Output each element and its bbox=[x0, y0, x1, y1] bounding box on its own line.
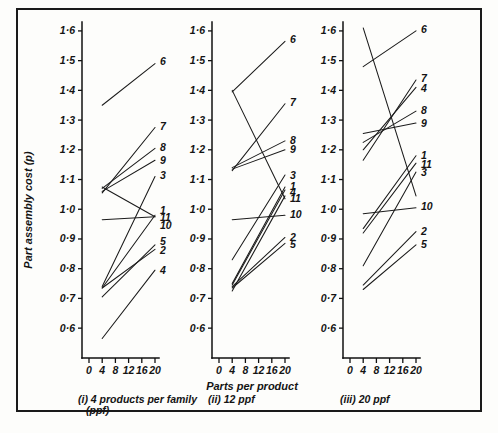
x-tick-label-1-4: 16 bbox=[136, 364, 148, 376]
y-tick-label-1-9: 1·5 bbox=[60, 54, 75, 66]
series-line-panel-i-10 bbox=[102, 217, 155, 220]
series-line-panel-iii-1 bbox=[363, 156, 416, 229]
series-label-panel-i-3: 3 bbox=[160, 169, 166, 181]
series-line-panel-i-8 bbox=[102, 148, 155, 188]
series-label-panel-i-9: 9 bbox=[160, 154, 166, 166]
y-tick-label-1-4: 1·0 bbox=[60, 203, 75, 215]
x-tick-label-3-5: 20 bbox=[409, 364, 422, 376]
series-label-panel-i-7: 7 bbox=[160, 120, 167, 132]
panel-1: 0·60·70·80·91·01·11·21·31·41·51·60481216… bbox=[60, 22, 198, 416]
y-tick-label-3-2: 0·8 bbox=[321, 262, 336, 274]
series-label-panel-iii-2: 2 bbox=[420, 225, 427, 237]
series-label-panel-ii-7: 7 bbox=[290, 96, 297, 108]
y-tick-label-2-9: 1·5 bbox=[190, 54, 205, 66]
series-line-panel-i-9 bbox=[102, 160, 155, 191]
y-tick-label-3-5: 1·1 bbox=[321, 173, 336, 185]
series-line-panel-ii-7 bbox=[232, 104, 285, 171]
series-label-panel-ii-6: 6 bbox=[290, 33, 296, 45]
series-label-panel-iii-9: 9 bbox=[421, 117, 427, 129]
series-line-panel-iii-4 bbox=[363, 87, 416, 149]
series-label-panel-iii-6: 6 bbox=[421, 23, 427, 35]
x-tick-label-1-0: 0 bbox=[86, 364, 92, 376]
series-label-panel-ii-11: 11 bbox=[290, 192, 301, 204]
series-line-panel-iii-12 bbox=[363, 28, 416, 196]
y-tick-label-3-10: 1·6 bbox=[321, 24, 336, 36]
panel-caption-2: (ii) 12 ppf bbox=[208, 393, 256, 405]
y-tick-label-3-1: 0·7 bbox=[321, 292, 337, 304]
panel-caption-3: (iii) 20 ppf bbox=[340, 393, 391, 405]
series-label-panel-iii-3: 3 bbox=[421, 166, 427, 178]
y-tick-label-1-3: 0·9 bbox=[60, 232, 75, 244]
series-line-panel-i-2 bbox=[102, 249, 155, 288]
y-tick-label-2-1: 0·7 bbox=[190, 292, 206, 304]
y-tick-label-2-3: 0·9 bbox=[190, 232, 205, 244]
y-tick-label-2-7: 1·3 bbox=[190, 114, 205, 126]
series-label-panel-iii-10: 10 bbox=[421, 200, 433, 212]
series-line-panel-iii-6 bbox=[363, 31, 416, 67]
y-tick-label-3-7: 1·3 bbox=[321, 114, 336, 126]
series-line-panel-i-1 bbox=[102, 187, 155, 217]
series-line-panel-i-11 bbox=[102, 215, 155, 288]
y-tick-label-2-0: 0·6 bbox=[190, 322, 205, 334]
y-tick-label-2-6: 1·2 bbox=[190, 143, 205, 155]
y-tick-label-2-8: 1·4 bbox=[190, 84, 205, 96]
series-line-panel-ii-5 bbox=[232, 243, 285, 288]
series-line-panel-iii-9 bbox=[363, 123, 416, 133]
y-tick-label-2-10: 1·6 bbox=[190, 24, 205, 36]
y-tick-label-1-1: 0·7 bbox=[60, 292, 76, 304]
x-tick-label-3-4: 16 bbox=[397, 364, 409, 376]
x-tick-label-3-2: 8 bbox=[373, 364, 379, 376]
series-line-panel-ii-2 bbox=[232, 237, 285, 286]
series-line-panel-i-7 bbox=[102, 128, 155, 193]
y-tick-label-2-2: 0·8 bbox=[190, 262, 205, 274]
series-label-panel-ii-10: 10 bbox=[290, 208, 302, 220]
panel-2: 0·60·70·80·91·01·11·21·31·41·51·60481216… bbox=[190, 22, 302, 405]
series-label-panel-iii-4: 4 bbox=[420, 82, 427, 94]
series-line-panel-ii-6 bbox=[232, 41, 285, 92]
x-tick-label-1-5: 20 bbox=[148, 364, 161, 376]
series-label-panel-ii-9: 9 bbox=[290, 143, 296, 155]
y-tick-label-3-3: 0·9 bbox=[321, 232, 336, 244]
series-line-panel-ii-10 bbox=[232, 215, 285, 219]
series-line-panel-iii-11 bbox=[363, 163, 416, 233]
y-tick-label-1-8: 1·4 bbox=[60, 84, 75, 96]
series-label-panel-i-11: 11 bbox=[160, 211, 171, 223]
y-tick-label-3-9: 1·5 bbox=[321, 54, 336, 66]
series-label-panel-iii-5: 5 bbox=[421, 238, 427, 250]
y-tick-label-3-4: 1·0 bbox=[321, 203, 336, 215]
series-line-panel-ii-4 bbox=[232, 190, 285, 285]
chart-canvas: 0·60·70·80·91·01·11·21·31·41·51·60481216… bbox=[0, 0, 498, 433]
series-line-panel-ii-9 bbox=[232, 150, 285, 169]
series-line-panel-iii-10 bbox=[363, 208, 416, 214]
y-axis-title: Part assembly cost (p) bbox=[22, 151, 34, 269]
y-tick-label-2-5: 1·1 bbox=[190, 173, 205, 185]
panel-caption-cont-1: (ppf) bbox=[86, 404, 110, 416]
y-tick-label-1-6: 1·2 bbox=[60, 143, 75, 155]
x-axis-title: Parts per product bbox=[206, 380, 299, 392]
x-tick-label-2-5: 20 bbox=[278, 364, 291, 376]
x-tick-label-2-3: 12 bbox=[253, 364, 265, 376]
series-label-panel-iii-8: 8 bbox=[421, 104, 427, 116]
series-label-panel-ii-5: 5 bbox=[290, 238, 296, 250]
y-tick-label-3-6: 1·2 bbox=[321, 143, 336, 155]
x-tick-label-1-3: 12 bbox=[123, 364, 135, 376]
x-tick-label-1-2: 8 bbox=[112, 364, 118, 376]
x-tick-label-2-0: 0 bbox=[216, 364, 222, 376]
series-line-panel-ii-11 bbox=[232, 196, 285, 291]
y-tick-label-1-7: 1·3 bbox=[60, 114, 75, 126]
series-line-panel-iii-7 bbox=[363, 80, 416, 160]
y-tick-label-2-4: 1·0 bbox=[190, 203, 205, 215]
series-label-panel-i-4: 4 bbox=[159, 264, 166, 276]
x-tick-label-3-1: 4 bbox=[359, 364, 366, 376]
y-tick-label-3-8: 1·4 bbox=[321, 84, 336, 96]
series-line-panel-ii-1 bbox=[232, 187, 285, 284]
panel-3: 0·60·70·80·91·01·11·21·31·41·51·60481216… bbox=[321, 22, 433, 405]
figure-container: 0·60·70·80·91·01·11·21·31·41·51·60481216… bbox=[0, 0, 498, 433]
y-tick-label-1-5: 1·1 bbox=[60, 173, 75, 185]
x-tick-label-3-0: 0 bbox=[347, 364, 353, 376]
x-tick-label-2-2: 8 bbox=[242, 364, 248, 376]
x-tick-label-2-4: 16 bbox=[266, 364, 278, 376]
series-label-panel-i-5: 5 bbox=[160, 235, 166, 247]
series-label-panel-i-8: 8 bbox=[160, 141, 166, 153]
x-tick-label-2-1: 4 bbox=[228, 364, 235, 376]
